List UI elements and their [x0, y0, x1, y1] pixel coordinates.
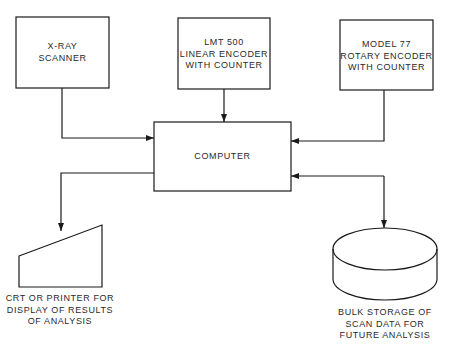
storage-disk-shape — [333, 228, 437, 300]
lmt500-label: LMT 500 LINEAR ENCODER WITH COUNTER — [178, 37, 270, 72]
display-label: CRT OR PRINTER FOR DISPLAY OF RESULTS OF… — [0, 293, 120, 328]
edge-model77-computer — [291, 90, 384, 141]
edge-computer-display — [61, 173, 154, 231]
xray-scanner-label: X-RAY SCANNER — [16, 41, 109, 64]
model77-label: MODEL 77 ROTARY ENCODER WITH COUNTER — [340, 39, 433, 74]
storage-label: BULK STORAGE OF SCAN DATA FOR FUTURE ANA… — [325, 307, 445, 342]
display-shape — [19, 225, 102, 287]
computer-label: COMPUTER — [154, 151, 291, 163]
edge-xray-computer — [62, 88, 154, 138]
